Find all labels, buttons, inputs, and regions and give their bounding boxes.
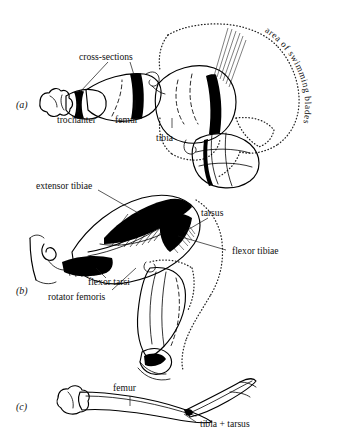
label-trochanter: trochanter: [57, 114, 97, 125]
panel-b-flexor-tarsi-muscle: [62, 256, 113, 277]
panel-a-letter: (a): [16, 99, 28, 111]
panel-c-tibia-tarsus: [184, 379, 256, 417]
label-area-of-swimming-blades: area of swimming blades: [263, 25, 313, 125]
label-flexor-tarsi: flexor tarsi: [88, 276, 130, 287]
panel-b-tibia-segment: [137, 268, 185, 359]
anatomy-figure: (a): [0, 0, 350, 443]
panel-b-letter: (b): [16, 285, 28, 297]
label-extensor-tibiae: extensor tibiae: [36, 180, 92, 191]
panel-b: (b): [16, 180, 279, 380]
panel-b-rotator-femoris: [30, 235, 64, 284]
figure-root: (a): [0, 0, 350, 443]
panel-a: (a): [16, 24, 313, 188]
label-cross-sections: cross-sections: [79, 51, 133, 62]
leader-extensor-tibiae: [98, 190, 140, 214]
label-femur-a: femur: [115, 114, 139, 125]
label-flexor-tibiae: flexor tibiae: [232, 245, 279, 256]
panel-b-tarsus-segment: [138, 349, 172, 380]
panel-b-tibia-joint: [144, 262, 155, 272]
label-rotator-femoris: rotator femoris: [48, 291, 106, 302]
label-tibia: tibia: [156, 132, 174, 143]
panel-a-swimming-blade-bristles: [214, 28, 246, 87]
panel-c-letter: (c): [16, 401, 28, 413]
label-tibia-tarsus: tibia + tarsus: [200, 418, 250, 429]
label-femur-c: femur: [113, 382, 137, 393]
panel-c: (c) femur t: [16, 379, 256, 429]
leader-cross-sections-right: [130, 62, 134, 75]
panel-a-swimming-blade-area-outline: [159, 24, 299, 177]
panel-b-flexor-tibiae-muscle: [159, 213, 195, 253]
leader-cross-sections-left: [80, 62, 108, 92]
panel-a-tarsus-segment: [192, 133, 259, 188]
label-tarsus-b: tarsus: [201, 207, 224, 218]
